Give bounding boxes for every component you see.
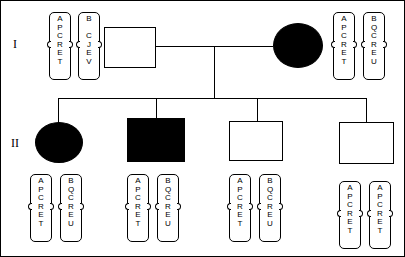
allele: T <box>340 227 360 236</box>
centromere-pinch-icon <box>147 203 151 210</box>
individual-symbol-II-1 <box>35 122 83 163</box>
centromere-pinch-icon <box>279 203 283 210</box>
centromere-pinch-icon <box>50 203 54 210</box>
allele: T <box>230 220 250 229</box>
sibling-drop-line-II-3 <box>257 98 258 121</box>
centromere-pinch-icon <box>177 203 181 210</box>
haplotype-bar-II-4-b: A P C R E T <box>369 181 391 249</box>
allele: U <box>61 220 81 229</box>
allele: U <box>260 220 280 229</box>
sibling-drop-line-II-1 <box>58 98 59 123</box>
sibling-drop-line-II-2 <box>156 98 157 118</box>
descent-line <box>214 46 215 98</box>
haplotype-bar-I-2-b: B Q C R E U <box>363 12 385 80</box>
centromere-pinch-icon <box>80 203 84 210</box>
centromere-pinch-icon <box>361 41 365 48</box>
haplotype-bar-II-2-a: A P C R E T <box>127 174 149 242</box>
centromere-pinch-icon <box>227 203 231 210</box>
centromere-pinch-icon <box>28 203 32 210</box>
centromere-pinch-icon <box>359 210 363 217</box>
allele: V <box>79 58 99 67</box>
sibship-line <box>58 98 367 99</box>
generation-label-2: II <box>11 137 19 149</box>
haplotype-bar-I-2-a: A P C R E T <box>333 12 355 80</box>
centromere-pinch-icon <box>69 41 73 48</box>
centromere-pinch-icon <box>331 41 335 48</box>
individual-symbol-II-2 <box>127 118 185 162</box>
allele: T <box>50 58 70 67</box>
haplotype-bar-II-4-a: A P C R E T <box>339 181 361 249</box>
haplotype-bar-II-1-a: A P C R E T <box>30 174 52 242</box>
centromere-pinch-icon <box>389 210 393 217</box>
allele: T <box>31 220 51 229</box>
allele: T <box>370 227 390 236</box>
individual-symbol-II-4 <box>339 122 394 164</box>
individual-symbol-I-1 <box>104 27 156 68</box>
allele: U <box>158 220 178 229</box>
allele: T <box>128 220 148 229</box>
centromere-pinch-icon <box>257 203 261 210</box>
centromere-pinch-icon <box>367 210 371 217</box>
centromere-pinch-icon <box>47 41 51 48</box>
centromere-pinch-icon <box>249 203 253 210</box>
generation-label-1: I <box>13 38 17 50</box>
allele: U <box>364 58 384 67</box>
individual-symbol-I-2 <box>273 23 323 68</box>
haplotype-bar-I-1-b: B C J E V <box>78 12 100 80</box>
centromere-pinch-icon <box>353 41 357 48</box>
centromere-pinch-icon <box>125 203 129 210</box>
centromere-pinch-icon <box>337 210 341 217</box>
centromere-pinch-icon <box>76 41 80 48</box>
haplotype-bar-II-3-a: A P C R E T <box>229 174 251 242</box>
centromere-pinch-icon <box>58 203 62 210</box>
individual-symbol-II-3 <box>229 121 283 161</box>
pedigree-figure: I II A P C R E T B C J E V A P C R E T B… <box>0 0 405 257</box>
haplotype-bar-II-3-b: B Q C R E U <box>259 174 281 242</box>
centromere-pinch-icon <box>98 41 102 48</box>
centromere-pinch-icon <box>155 203 159 210</box>
allele: T <box>334 58 354 67</box>
haplotype-bar-II-2-b: B Q C R E U <box>157 174 179 242</box>
haplotype-bar-I-1-a: A P C R E T <box>49 12 71 80</box>
centromere-pinch-icon <box>383 41 387 48</box>
sibling-drop-line-II-4 <box>366 98 367 123</box>
haplotype-bar-II-1-b: B Q C R E U <box>60 174 82 242</box>
